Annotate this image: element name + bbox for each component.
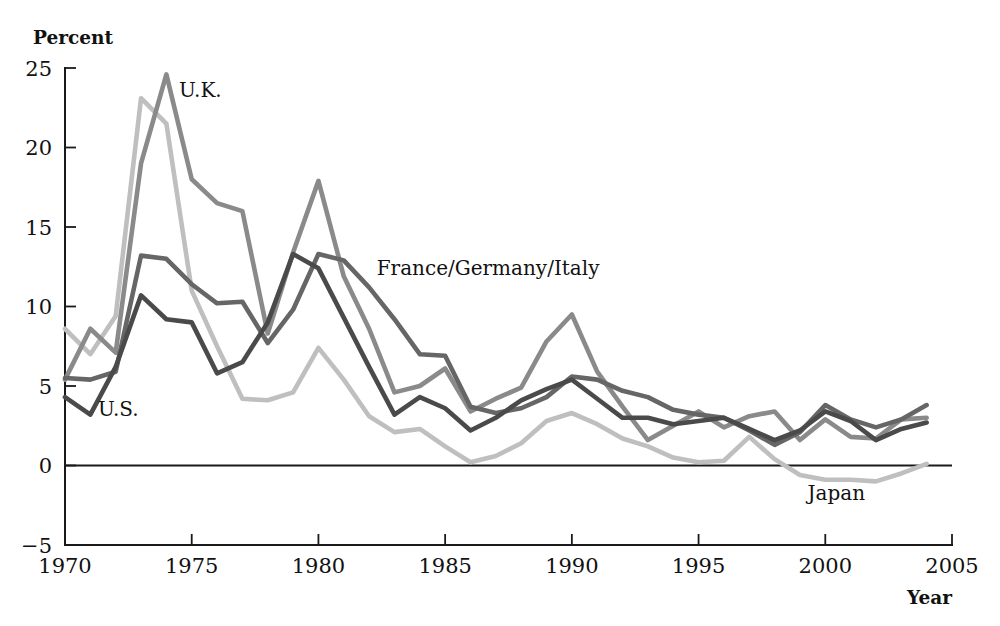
x-axis-ticks: 19701975198019851990199520002005 [38,534,978,578]
y-axis-ticks: −50510152025 [21,57,76,558]
x-tick-label: 2000 [799,554,852,578]
series-annotation-fgi: France/Germany/Italy [377,256,600,280]
y-tick-label: 10 [25,295,52,319]
line-chart: −50510152025 197019751980198519901995200… [0,0,1000,626]
x-tick-label: 1990 [545,554,598,578]
series-line-japan [65,98,927,481]
chart-container: −50510152025 197019751980198519901995200… [0,0,1000,626]
y-tick-label: 5 [39,375,52,399]
x-tick-label: 2005 [925,554,978,578]
y-tick-label: 0 [39,454,52,478]
series-annotation-uk: U.K. [179,78,222,102]
x-tick-label: 1985 [418,554,471,578]
series-annotations: U.K.U.S.France/Germany/ItalyJapan [98,78,865,506]
x-tick-label: 1970 [38,554,91,578]
x-tick-label: 1995 [672,554,725,578]
x-tick-label: 1980 [292,554,345,578]
x-axis-title: Year [906,587,952,608]
y-tick-label: 15 [25,216,52,240]
y-tick-label: 25 [25,57,52,81]
series-annotation-us: U.S. [98,397,139,421]
y-axis-title: Percent [33,27,113,48]
series-annotation-japan: Japan [806,481,866,505]
y-tick-label: 20 [25,136,52,160]
x-tick-label: 1975 [165,554,218,578]
